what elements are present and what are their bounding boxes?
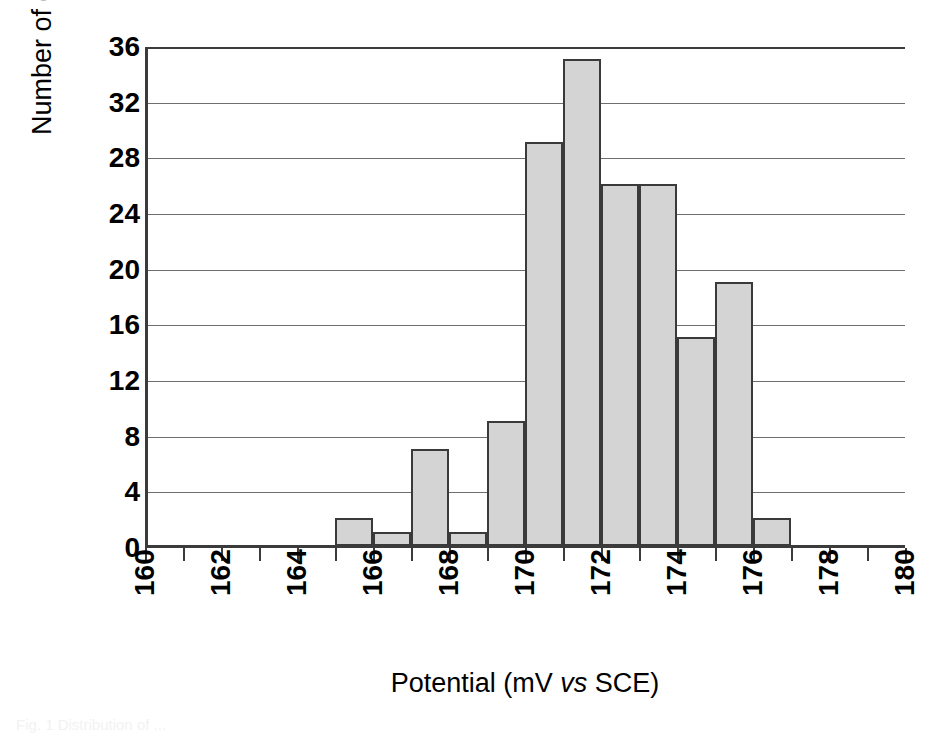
x-axis-tick-label: 164 (280, 506, 314, 596)
x-axis-tick-label: 178 (812, 506, 846, 596)
x-axis-title-before: Potential (mV (391, 668, 561, 698)
y-axis-tick-label: 20 (74, 256, 140, 284)
x-axis-tick (411, 548, 413, 561)
x-axis-tick (639, 548, 641, 561)
x-axis-tick-label: 172 (584, 506, 618, 596)
figure-caption-fragment: Fig. 1 Distribution of ... (16, 716, 436, 735)
bar (525, 142, 563, 546)
bar (601, 184, 639, 546)
x-axis-title-italic: vs (560, 668, 587, 698)
x-axis-tick (867, 548, 869, 561)
bar (563, 59, 601, 546)
y-axis-line (145, 47, 148, 548)
x-axis-tick (183, 548, 185, 561)
x-axis-tick (335, 548, 337, 561)
x-axis-tick-label: 176 (736, 506, 770, 596)
y-axis-tick-label: 8 (74, 423, 140, 451)
histogram-figure: Number of electrodes 04812162024283236 1… (0, 0, 939, 735)
x-axis-tick-label: 174 (660, 506, 694, 596)
y-axis-tick-labels: 04812162024283236 (60, 0, 140, 735)
y-axis-tick-label: 36 (74, 33, 140, 61)
x-axis-tick (487, 548, 489, 561)
y-axis-tick-label: 12 (74, 367, 140, 395)
x-axis-tick-label: 160 (128, 506, 162, 596)
y-axis-tick-label: 24 (74, 200, 140, 228)
x-axis-tick-label: 166 (356, 506, 390, 596)
x-axis-tick (563, 548, 565, 561)
bar (639, 184, 677, 546)
x-axis-tick-label: 180 (888, 506, 922, 596)
plot-top-border (145, 47, 905, 49)
y-axis-tick-label: 28 (74, 144, 140, 172)
y-axis-tick-label: 16 (74, 311, 140, 339)
bar-series (145, 47, 905, 548)
x-axis-tick-label: 162 (204, 506, 238, 596)
x-axis-tick-label: 168 (432, 506, 466, 596)
x-axis-title: Potential (mV vs SCE) (145, 668, 905, 699)
x-axis-title-after: SCE) (587, 668, 659, 698)
x-axis-tick (715, 548, 717, 561)
y-axis-tick-label: 4 (74, 478, 140, 506)
x-axis-tick-label: 170 (508, 506, 542, 596)
x-axis-tick (259, 548, 261, 561)
x-axis-tick (791, 548, 793, 561)
plot-area (145, 47, 905, 548)
x-axis-tick-labels: 160162164166168170172174176178180 (145, 562, 905, 652)
y-axis-tick-label: 32 (74, 89, 140, 117)
